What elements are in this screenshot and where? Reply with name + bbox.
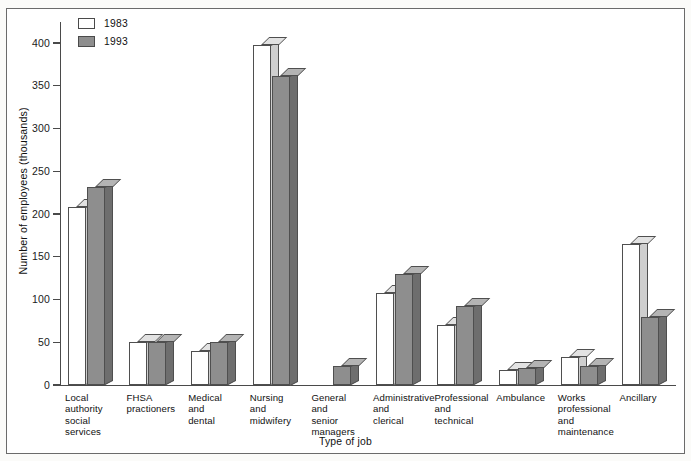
bar-top-face xyxy=(464,298,490,306)
category-label-line: senior xyxy=(311,415,381,426)
bar-front-face xyxy=(456,306,474,385)
x-axis-category-label: Ambulance xyxy=(496,392,566,403)
bar-front-face xyxy=(87,187,105,385)
bar-front-face xyxy=(148,342,166,385)
category-label-line: Medical xyxy=(188,392,258,403)
category-label-line: technical xyxy=(435,415,505,426)
bar-1993-10 xyxy=(641,317,659,385)
y-axis-tick xyxy=(53,342,60,343)
category-label-line: and xyxy=(311,403,381,414)
bar-1983-10 xyxy=(622,244,640,385)
bar-1993-5 xyxy=(333,366,351,385)
figure-bar-chart-nhs-employees: 1983 1993 050100150200250300350400 Numbe… xyxy=(0,0,691,461)
bar-front-face xyxy=(253,45,271,385)
bar-front-face xyxy=(622,244,640,385)
bar-side-face xyxy=(105,182,113,385)
category-label-line: professional xyxy=(558,403,628,414)
x-axis-category-label: Ancillary xyxy=(619,392,689,403)
category-label-line: Works xyxy=(558,392,628,403)
bar-top-face xyxy=(588,358,614,366)
x-axis-category-label: FHSApractioners xyxy=(127,392,197,415)
bar-front-face xyxy=(191,351,209,385)
bar-1993-9 xyxy=(580,366,598,385)
category-label-line: and xyxy=(435,403,505,414)
bar-front-face xyxy=(376,293,394,385)
bar-1983-3 xyxy=(191,351,209,385)
category-label-line: Local xyxy=(65,392,135,403)
x-axis-title: Type of job xyxy=(0,436,691,447)
bar-1993-4 xyxy=(272,76,290,386)
bar-1993-7 xyxy=(456,306,474,385)
category-label-line: and xyxy=(373,403,443,414)
bar-front-face xyxy=(129,342,147,385)
bar-front-face xyxy=(395,274,413,385)
bar-front-face xyxy=(210,342,228,385)
bar-1983-9 xyxy=(561,357,579,385)
bar-front-face xyxy=(68,207,86,385)
bar-front-face xyxy=(518,368,536,385)
bar-1993-2 xyxy=(148,342,166,385)
category-label-line: clerical xyxy=(373,415,443,426)
y-axis-tick xyxy=(53,299,60,300)
category-label-line: General xyxy=(311,392,381,403)
bar-1983-6 xyxy=(376,293,394,385)
y-axis-tick xyxy=(53,85,60,86)
bar-top-face xyxy=(218,334,244,342)
bar-front-face xyxy=(499,370,517,385)
bar-side-face xyxy=(413,270,421,385)
y-axis-tick xyxy=(53,213,60,214)
category-label-line: dental xyxy=(188,415,258,426)
category-label-line: Ancillary xyxy=(619,392,689,403)
bar-side-face xyxy=(474,302,482,385)
category-label-line: authority xyxy=(65,403,135,414)
bar-side-face xyxy=(166,338,174,385)
bar-front-face xyxy=(333,366,351,385)
bar-side-face xyxy=(290,71,298,385)
bar-top-face xyxy=(569,349,595,357)
bar-front-face xyxy=(437,325,455,385)
category-label-line: Nursing xyxy=(250,392,320,403)
bar-side-face xyxy=(228,338,236,385)
x-axis-category-label: Localauthoritysocialservices xyxy=(65,392,135,438)
bar-top-face xyxy=(341,358,367,366)
x-axis-category-label: Worksprofessionalandmaintenance xyxy=(558,392,628,438)
bar-1993-6 xyxy=(395,274,413,385)
bar-top-face xyxy=(630,236,656,244)
y-axis-tick xyxy=(53,384,60,385)
bar-front-face xyxy=(272,76,290,386)
x-axis-category-label: Administrativeandclerical xyxy=(373,392,443,426)
bar-1993-3 xyxy=(210,342,228,385)
bar-1993-8 xyxy=(518,368,536,385)
bar-1993-1 xyxy=(87,187,105,385)
category-label-line: Ambulance xyxy=(496,392,566,403)
category-label-line: Professional xyxy=(435,392,505,403)
bar-top-face xyxy=(280,68,306,76)
x-axis-category-label: Professionalandtechnical xyxy=(435,392,505,426)
x-axis-category-label: Medicalanddental xyxy=(188,392,258,426)
category-label-line: and xyxy=(558,415,628,426)
category-label-line: and xyxy=(188,403,258,414)
bar-top-face xyxy=(403,266,429,274)
bar-1983-4 xyxy=(253,45,271,385)
bar-front-face xyxy=(641,317,659,385)
bar-top-face xyxy=(261,37,287,45)
y-axis-tick xyxy=(53,256,60,257)
y-axis-tick xyxy=(53,42,60,43)
bar-1983-7 xyxy=(437,325,455,385)
bar-1983-8 xyxy=(499,370,517,385)
bar-top-face xyxy=(649,309,675,317)
category-label-line: and xyxy=(250,403,320,414)
plot-area-bars: LocalauthoritysocialservicesFHSApraction… xyxy=(0,0,691,461)
category-label-line: social xyxy=(65,415,135,426)
bar-1983-2 xyxy=(129,342,147,385)
bar-top-face xyxy=(95,179,121,187)
category-label-line: practioners xyxy=(127,403,197,414)
bar-side-face xyxy=(659,312,667,385)
bar-front-face xyxy=(580,366,598,385)
x-axis-category-label: Nursingandmidwifery xyxy=(250,392,320,426)
y-axis-tick xyxy=(53,128,60,129)
x-axis-category-label: Generalandseniormanagers xyxy=(311,392,381,438)
bar-1983-1 xyxy=(68,207,86,385)
category-label-line: Administrative xyxy=(373,392,443,403)
y-axis-tick xyxy=(53,171,60,172)
